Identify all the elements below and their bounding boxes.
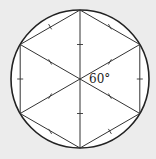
hexagon-in-circle-diagram: 60°: [0, 0, 156, 159]
angle-label: 60°: [89, 72, 110, 86]
